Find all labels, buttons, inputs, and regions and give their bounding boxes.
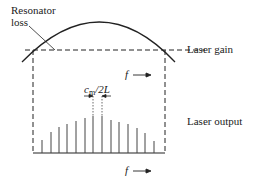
freq-axis-top-label: f — [125, 68, 130, 80]
freq-arrow-top-icon — [133, 73, 151, 77]
resonator-loss-label-line2: loss — [11, 16, 28, 28]
freq-axis-bottom-label: f — [125, 164, 130, 176]
resonator-loss-label-line1: Resonator — [11, 4, 56, 16]
gain-curve — [22, 22, 175, 62]
mode-spikes — [42, 116, 154, 153]
mode-spacing-label: cm/2L — [84, 83, 110, 97]
laser-mode-diagram: Resonator loss Laser gain Laser output f… — [0, 0, 257, 180]
laser-output-label: Laser output — [187, 115, 242, 127]
laser-gain-label: Laser gain — [187, 43, 234, 55]
freq-arrow-bottom-icon — [133, 169, 151, 173]
